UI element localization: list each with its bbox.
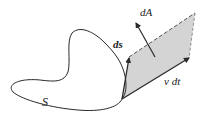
closed-curve-s	[11, 30, 126, 111]
swept-area-parallelogram	[122, 13, 195, 99]
label-dA: dA	[140, 6, 153, 18]
label-ds: ds	[113, 38, 123, 50]
diagram-canvas: dA ds v dt S	[0, 0, 206, 126]
label-vdt: v dt	[164, 75, 181, 87]
label-S: S	[42, 95, 48, 109]
